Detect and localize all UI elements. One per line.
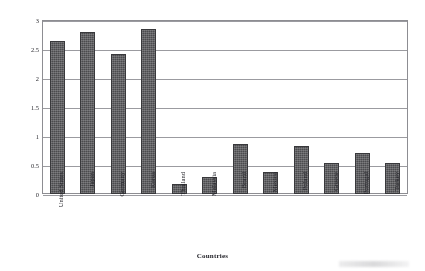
gridline: [43, 108, 407, 109]
x-tick-slot: Brazil: [225, 196, 256, 250]
bar-chart-figure: R & D expenditures as a % of GNP 00.511.…: [0, 0, 425, 271]
y-axis-tick-label: 2.5: [15, 46, 39, 53]
scan-artifact: [339, 261, 409, 267]
x-axis-tick-label: Thailand: [179, 171, 187, 225]
y-axis-tick-label: 1.5: [15, 104, 39, 111]
y-axis-tick-label: 0.5: [15, 162, 39, 169]
x-axis-tick-label: Mexico: [271, 171, 279, 225]
gridline: [43, 50, 407, 51]
gridline: [43, 166, 407, 167]
y-axis-tick-label: 0: [15, 191, 39, 198]
x-axis-tick-label: Poland: [301, 171, 309, 225]
y-axis-tick-label: 1: [15, 133, 39, 140]
plot-area: [42, 20, 408, 194]
x-tick-slot: Greece: [317, 196, 348, 250]
x-axis-tick-label: United States: [57, 171, 65, 225]
x-tick-slot: United States: [42, 196, 73, 250]
y-axis-tick-label: 2: [15, 75, 39, 82]
x-tick-slot: Turkey: [378, 196, 409, 250]
x-tick-slot: Portugal: [347, 196, 378, 250]
x-axis-title: Countries: [0, 252, 425, 260]
x-axis-tick-label: Brazil: [240, 171, 248, 225]
x-tick-slot: Germany: [103, 196, 134, 250]
x-axis-tick-label: Portugal: [362, 171, 370, 225]
x-tick-slot: Mexico: [256, 196, 287, 250]
x-axis-tick-label: Malaysia: [210, 171, 218, 225]
x-axis-tick-label: Germany: [118, 171, 126, 225]
y-axis-tick-label: 3: [15, 17, 39, 24]
gridline: [43, 137, 407, 138]
x-tick-slot: Korea: [134, 196, 165, 250]
x-tick-slot: Thailand: [164, 196, 195, 250]
x-tick-slot: Poland: [286, 196, 317, 250]
gridline: [43, 79, 407, 80]
x-tick-slot: Japan: [73, 196, 104, 250]
x-axis-tick-label: Korea: [149, 171, 157, 225]
x-axis-tick-label: Turkey: [393, 171, 401, 225]
gridline: [43, 21, 407, 22]
x-axis-tick-label: Greece: [332, 171, 340, 225]
x-axis-tick-labels: United StatesJapanGermanyKoreaThailandMa…: [42, 196, 408, 250]
x-axis-tick-label: Japan: [88, 171, 96, 225]
x-tick-slot: Malaysia: [195, 196, 226, 250]
